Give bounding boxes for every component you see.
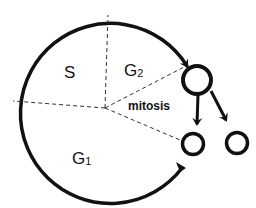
divider-s-g1 [13, 101, 105, 108]
arc-entry-arrowhead [176, 162, 186, 172]
daughter-cell-right-icon [227, 133, 248, 154]
phase-label-g1: G1 [72, 149, 91, 168]
phase-label-g2: G2 [124, 61, 143, 80]
phase-label-s: S [64, 63, 75, 82]
daughter-cell-left-icon [183, 134, 204, 155]
division-arrow-left [197, 95, 198, 124]
mitosis-label: mitosis [128, 99, 170, 113]
parent-cell-icon [183, 66, 211, 94]
phase-dividers [13, 15, 186, 140]
cell-cycle-arc [20, 23, 187, 203]
division-arrow-right [211, 91, 226, 120]
divider-s-g2 [105, 15, 108, 108]
cell-cycle-diagram: S G2 G1 mitosis [0, 0, 256, 208]
